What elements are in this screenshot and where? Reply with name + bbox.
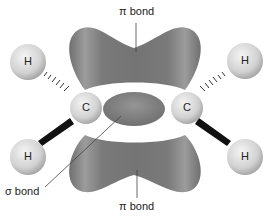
ethylene-bond-diagram: π bond π bond σ bond H H C C H H <box>0 0 269 217</box>
pi-bond-top-lobe <box>69 27 201 90</box>
atom-label-h-top-right: H <box>235 54 255 66</box>
atom-label-c-right: C <box>177 101 197 113</box>
sigma-bond-lobe <box>103 92 165 126</box>
diagram-graphic <box>0 0 269 217</box>
pi-bond-bottom-label: π bond <box>119 200 154 212</box>
wedge-bond-left <box>38 118 74 146</box>
atom-label-c-left: C <box>76 101 96 113</box>
hashed-bond-left <box>44 72 69 91</box>
pi-bond-top-label: π bond <box>119 5 154 17</box>
sigma-bond-label: σ bond <box>5 185 39 197</box>
atom-label-h-bottom-right: H <box>235 150 255 162</box>
wedge-bond-right <box>195 118 231 146</box>
atom-label-h-bottom-left: H <box>18 150 38 162</box>
pi-bond-bottom-lobe <box>69 135 201 192</box>
atom-label-h-top-left: H <box>18 55 38 67</box>
hashed-bond-right <box>200 72 225 91</box>
